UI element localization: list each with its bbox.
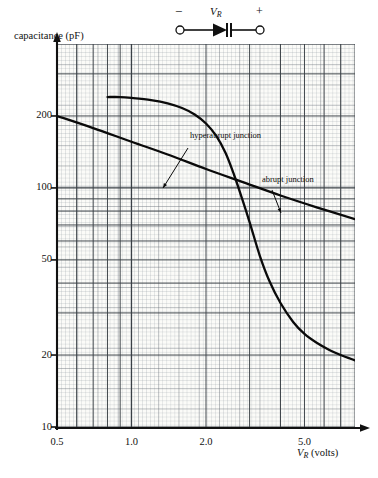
annotation-abrupt: abrupt junction (262, 175, 314, 184)
axis-lines (0, 0, 378, 478)
annotation-hyperabrupt: hyperabrupt junction (190, 131, 261, 140)
chart-page: − VR + capacitance (pF) VR (volts) 10205… (0, 0, 378, 478)
